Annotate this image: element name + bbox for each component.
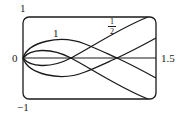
fraction-numerator: 1 xyxy=(108,18,116,27)
curve-one-lower xyxy=(23,38,156,76)
y-min-label: −1 xyxy=(17,102,29,113)
curve-label-one: 1 xyxy=(53,28,59,39)
curve-one-upper xyxy=(23,40,156,78)
x-max-label: 1.5 xyxy=(161,53,175,64)
fraction-denominator: 2 xyxy=(108,27,116,36)
curve-family-plot xyxy=(0,0,181,117)
y-max-label: 1 xyxy=(20,3,26,14)
x-min-label: 0 xyxy=(12,53,18,64)
curve-label-half: 1 2 xyxy=(108,18,116,36)
